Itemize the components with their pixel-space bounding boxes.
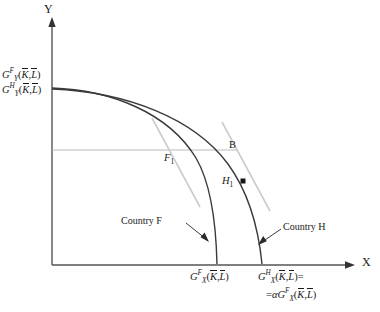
x-intercept-label-country-h: GHX(K,L)= <box>258 270 304 285</box>
ppf-diagram: Y X GFY(K,L) GHY(K,L) GFX(K,L) GHX(K,L)=… <box>0 0 380 312</box>
y-intercept-h-k: K <box>22 84 29 95</box>
x-intercept-h2-g: G <box>277 289 285 300</box>
y-intercept-f-g: G <box>2 69 10 80</box>
x-intercept-f-l: L <box>220 271 226 282</box>
y-intercept-h-g: G <box>2 84 10 95</box>
x-intercept-h-g: G <box>258 271 266 282</box>
y-intercept-f-l: L <box>31 69 37 80</box>
x-intercept-h-k: K <box>279 271 286 282</box>
y-axis-label: Y <box>44 3 53 16</box>
x-intercept-label-country-f: GFX(K,L) <box>190 270 229 285</box>
curve-label-country-f: Country F <box>121 216 162 227</box>
point-h1-name: H <box>222 175 230 186</box>
y-intercept-label-country-h: GHY(K,L) <box>2 83 41 98</box>
x-intercept-f-k: K <box>210 271 217 282</box>
leader-arrow-country-h <box>258 229 281 245</box>
x-intercept-h-l: L <box>288 271 294 282</box>
x-intercept-f-g: G <box>190 271 198 282</box>
point-h1-sub: 1 <box>230 180 234 189</box>
x-intercept-h2-l: L <box>307 289 313 300</box>
x-intercept-h2-k: K <box>297 289 304 300</box>
curve-label-country-h: Country H <box>283 222 326 233</box>
x-intercept-h-equals: = <box>298 271 304 282</box>
x-axis-label: X <box>362 256 371 269</box>
y-intercept-f-close: ) <box>37 69 41 80</box>
curve-country-f <box>52 88 217 264</box>
y-intercept-label-country-f: GFY(K,L) <box>2 68 40 83</box>
point-label-h1: H1 <box>222 175 233 189</box>
point-label-f1: F1 <box>164 152 174 166</box>
x-axis <box>52 261 355 268</box>
leader-arrow-country-f <box>186 223 209 242</box>
y-intercept-h-l: L <box>32 84 38 95</box>
x-intercept-f-close: ) <box>225 271 229 282</box>
point-f1-sub: 1 <box>170 157 174 166</box>
point-marker-h1 <box>241 179 246 184</box>
point-label-b: B <box>229 139 236 150</box>
diagram-canvas <box>0 0 380 312</box>
x-intercept-label-country-h-alpha: =αGFX(K,L) <box>266 288 316 303</box>
y-intercept-f-k: K <box>21 69 28 80</box>
y-intercept-h-close: ) <box>38 84 42 95</box>
x-intercept-h2-close: ) <box>313 289 317 300</box>
y-axis <box>48 17 55 265</box>
